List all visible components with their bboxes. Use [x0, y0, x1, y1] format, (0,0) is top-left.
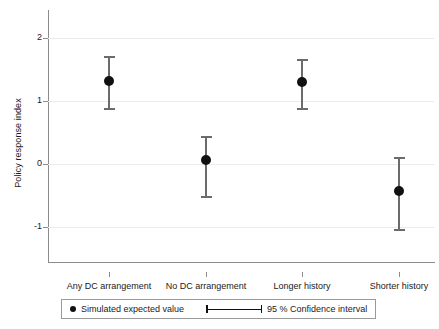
- plot-area: -1012Any DC arrangementNo DC arrangement…: [48, 10, 434, 262]
- y-axis-tick-label: 0: [22, 159, 42, 168]
- filled-circle-icon: [70, 306, 76, 312]
- y-axis-tick-label: 2: [22, 33, 42, 42]
- y-axis-tick: [43, 101, 48, 102]
- confidence-interval-cap-lower: [394, 229, 405, 231]
- x-axis-tick-label: Shorter history: [339, 281, 439, 292]
- chart-legend: Simulated expected value 95 % Confidence…: [61, 299, 376, 319]
- legend-label-expected-value: Simulated expected value: [81, 304, 184, 314]
- y-axis-tick: [43, 164, 48, 165]
- x-axis-tick: [206, 272, 207, 277]
- gridline: [48, 164, 434, 165]
- x-axis-line: [48, 262, 435, 263]
- confidence-interval-cap-upper: [394, 157, 405, 159]
- legend-item-expected-value: Simulated expected value: [70, 304, 184, 314]
- y-axis-tick: [43, 227, 48, 228]
- y-axis-tick: [43, 38, 48, 39]
- gridline: [48, 101, 434, 102]
- x-axis-tick: [109, 272, 110, 277]
- y-axis-tick-label: -1: [22, 222, 42, 231]
- x-axis-tick: [302, 272, 303, 277]
- confidence-interval-cap-lower: [201, 196, 212, 198]
- gridline: [48, 38, 434, 39]
- confidence-interval-line: [205, 136, 207, 198]
- confidence-interval-cap-upper: [201, 136, 212, 138]
- capped-line-icon: [206, 305, 262, 313]
- confidence-interval-cap-upper: [297, 59, 308, 61]
- legend-label-confidence-interval: 95 % Confidence interval: [267, 304, 367, 314]
- y-axis-title: Policy response index: [13, 73, 23, 213]
- expected-value-marker: [104, 76, 114, 86]
- confidence-interval-cap-upper: [104, 56, 115, 58]
- x-axis-tick: [399, 272, 400, 277]
- confidence-interval-cap-lower: [104, 108, 115, 110]
- expected-value-marker: [297, 77, 307, 87]
- legend-item-confidence-interval: 95 % Confidence interval: [206, 304, 367, 314]
- chart-container: Policy response index -1012Any DC arrang…: [0, 0, 439, 329]
- y-axis-tick-label: 1: [22, 96, 42, 105]
- expected-value-marker: [201, 155, 211, 165]
- confidence-interval-cap-lower: [297, 108, 308, 110]
- expected-value-marker: [394, 186, 404, 196]
- gridline: [48, 227, 434, 228]
